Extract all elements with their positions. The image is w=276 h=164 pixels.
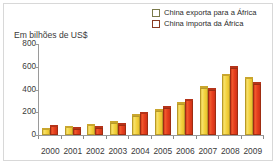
bar-top-cap xyxy=(245,77,253,79)
bar-face xyxy=(42,129,50,135)
bar-import[interactable] xyxy=(95,128,103,135)
bar-top-cap xyxy=(208,88,216,90)
bar-group xyxy=(84,44,107,135)
bar-face xyxy=(110,123,118,136)
bar-export[interactable] xyxy=(132,116,140,135)
bar-import[interactable] xyxy=(230,68,238,135)
bar-import[interactable] xyxy=(73,129,81,135)
bar-face xyxy=(87,125,95,135)
bar-export[interactable] xyxy=(110,123,118,136)
bar-face xyxy=(95,128,103,135)
legend-item-export[interactable]: China exporta para a África xyxy=(152,8,256,17)
bar-group xyxy=(174,44,197,135)
bar-group xyxy=(62,44,85,135)
x-tick-label: 2000 xyxy=(41,146,60,156)
bar-top-cap xyxy=(132,114,140,116)
bar-import[interactable] xyxy=(253,84,261,135)
x-tick-mark xyxy=(196,136,197,139)
bar-face xyxy=(155,111,163,135)
x-tick-mark xyxy=(38,136,39,139)
bar-top-cap xyxy=(42,128,50,130)
x-tick-label: 2004 xyxy=(131,146,150,156)
bar-face xyxy=(230,68,238,135)
bar-top-cap xyxy=(253,82,261,84)
bar-export[interactable] xyxy=(222,75,230,135)
y-tick-label: 400 xyxy=(22,86,36,94)
bar-group xyxy=(129,44,152,135)
x-tick-label: 2006 xyxy=(176,146,195,156)
x-tick-label: 2001 xyxy=(63,146,82,156)
legend-label-import: China importa da África xyxy=(164,19,243,28)
y-tick-label: 600 xyxy=(22,63,36,71)
y-tick-label: 800 xyxy=(22,40,36,48)
chart-legend: China exporta para a África China import… xyxy=(152,8,256,28)
bar-face xyxy=(73,129,81,135)
chart-inner-panel: China exporta para a África China import… xyxy=(3,3,273,161)
bar-export[interactable] xyxy=(245,78,253,135)
x-axis-labels: 2000200120022003200420052006200720082009 xyxy=(14,146,266,160)
bar-import[interactable] xyxy=(208,90,216,136)
x-tick-label: 2008 xyxy=(221,146,240,156)
bar-import[interactable] xyxy=(140,113,148,135)
bar-face xyxy=(132,116,140,135)
bar-top-cap xyxy=(177,102,185,104)
bar-import[interactable] xyxy=(163,108,171,135)
bar-face xyxy=(140,113,148,135)
bar-export[interactable] xyxy=(177,104,185,135)
bar-export[interactable] xyxy=(87,125,95,135)
yellow-swatch-icon xyxy=(152,9,160,17)
bar-import[interactable] xyxy=(118,125,126,135)
bar-group xyxy=(107,44,130,135)
bar-import[interactable] xyxy=(50,126,58,135)
x-tick-mark xyxy=(61,136,62,139)
bar-top-cap xyxy=(185,99,193,101)
bar-top-cap xyxy=(163,106,171,108)
bar-face xyxy=(222,75,230,135)
x-tick-label: 2005 xyxy=(153,146,172,156)
bar-face xyxy=(65,127,73,135)
bar-face xyxy=(253,84,261,135)
bar-top-cap xyxy=(118,123,126,125)
bar-face xyxy=(208,90,216,136)
bar-export[interactable] xyxy=(42,129,50,135)
bar-top-cap xyxy=(200,86,208,88)
bar-series-container xyxy=(39,44,264,135)
x-tick-mark xyxy=(106,136,107,139)
x-tick-mark xyxy=(173,136,174,139)
bar-face xyxy=(50,126,58,135)
bar-top-cap xyxy=(65,126,73,128)
bar-top-cap xyxy=(140,112,148,114)
bar-top-cap xyxy=(110,121,118,123)
bar-export[interactable] xyxy=(65,127,73,135)
bar-face xyxy=(245,78,253,135)
bar-top-cap xyxy=(95,126,103,128)
bar-import[interactable] xyxy=(185,100,193,135)
bar-face xyxy=(118,125,126,135)
bar-group xyxy=(242,44,265,135)
x-tick-mark xyxy=(83,136,84,139)
bar-face xyxy=(177,104,185,135)
legend-label-export: China exporta para a África xyxy=(164,8,256,17)
x-tick-label: 2009 xyxy=(243,146,262,156)
bar-top-cap xyxy=(73,127,81,129)
legend-item-import[interactable]: China importa da África xyxy=(152,19,256,28)
y-axis-labels: 0200400600800 xyxy=(14,44,36,136)
bar-group xyxy=(197,44,220,135)
bar-group xyxy=(219,44,242,135)
bar-export[interactable] xyxy=(155,111,163,135)
x-tick-label: 2003 xyxy=(108,146,127,156)
bar-export[interactable] xyxy=(200,88,208,135)
x-tick-mark xyxy=(241,136,242,139)
bar-top-cap xyxy=(87,124,95,126)
x-tick-mark xyxy=(128,136,129,139)
bar-top-cap xyxy=(50,125,58,127)
x-tick-mark xyxy=(263,136,264,139)
plot-area: 0200400600800 xyxy=(14,44,266,144)
y-tick-label: 200 xyxy=(22,108,36,116)
bar-group xyxy=(152,44,175,135)
bar-group xyxy=(39,44,62,135)
bar-top-cap xyxy=(222,74,230,76)
bar-face xyxy=(185,100,193,135)
x-tick-mark xyxy=(218,136,219,139)
chart-frame: China exporta para a África China import… xyxy=(0,0,276,164)
